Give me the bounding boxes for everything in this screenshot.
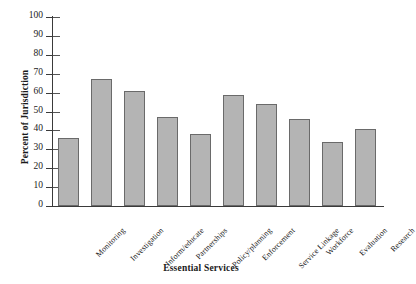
y-axis-title: Percent of Jurisdiction bbox=[20, 32, 30, 202]
y-tick-label: 60 bbox=[34, 86, 44, 96]
bar-slot bbox=[322, 17, 343, 206]
x-tick-label: Inform/educate bbox=[163, 226, 205, 268]
bar bbox=[223, 95, 244, 207]
x-tick-label: Research bbox=[388, 226, 416, 254]
bar-slot bbox=[157, 17, 178, 206]
x-tick-label: Evaluation bbox=[357, 226, 389, 258]
y-tick-label: 30 bbox=[34, 142, 44, 152]
bar bbox=[58, 138, 79, 206]
bar bbox=[91, 79, 112, 206]
x-tick-label: Monitoring bbox=[93, 226, 126, 259]
bar-slot bbox=[289, 17, 310, 206]
y-tick-label: 80 bbox=[34, 48, 44, 58]
y-tick-label: 40 bbox=[34, 123, 44, 133]
bar-slot bbox=[223, 17, 244, 206]
bar-slot bbox=[91, 17, 112, 206]
y-tick-label: 50 bbox=[34, 105, 44, 115]
y-tick-label: 90 bbox=[34, 29, 44, 39]
y-tick-0: 0 bbox=[46, 206, 52, 207]
bar bbox=[124, 91, 145, 206]
bar bbox=[289, 119, 310, 206]
bar bbox=[190, 134, 211, 206]
x-axis-title: Essential Services bbox=[0, 263, 402, 273]
bar-slot bbox=[355, 17, 376, 206]
y-tick-label: 0 bbox=[38, 199, 43, 209]
bar bbox=[157, 117, 178, 206]
y-tick-label: 20 bbox=[34, 161, 44, 171]
bar bbox=[256, 104, 277, 206]
x-axis-line bbox=[52, 206, 384, 207]
x-tick-label: Investigation bbox=[128, 226, 165, 263]
bar-slot bbox=[58, 17, 79, 206]
bar bbox=[322, 142, 343, 206]
bar-slot bbox=[256, 17, 277, 206]
bar-slot bbox=[124, 17, 145, 206]
bar-series bbox=[52, 17, 382, 206]
y-tick-label: 10 bbox=[34, 180, 44, 190]
y-tick-label: 70 bbox=[34, 67, 44, 77]
y-tick-label: 100 bbox=[29, 10, 43, 20]
bar bbox=[355, 129, 376, 206]
bar-slot bbox=[190, 17, 211, 206]
plot-area: 1009080706050403020100 MonitoringInvesti… bbox=[52, 17, 382, 206]
